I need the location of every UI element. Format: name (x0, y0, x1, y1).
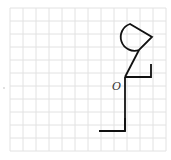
grid (10, 8, 166, 151)
stick-figure (99, 24, 152, 131)
margin-mark (3, 87, 5, 89)
diagram-canvas: O (0, 0, 171, 160)
point-o-label: O (112, 80, 121, 93)
